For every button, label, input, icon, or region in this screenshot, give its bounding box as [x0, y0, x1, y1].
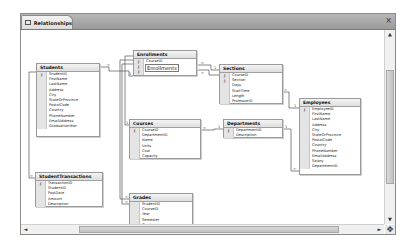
- field-row[interactable]: Description: [224, 133, 282, 138]
- tab-relationships[interactable]: Relationships: [21, 15, 73, 29]
- table-students[interactable]: Students ⚷StudentID FirstName LastName A…: [36, 63, 100, 137]
- field-row[interactable]: ProfessorID: [220, 99, 282, 104]
- field-row[interactable]: Capacity: [130, 154, 200, 159]
- close-icon[interactable]: ×: [385, 16, 392, 26]
- table-departments[interactable]: Departments ⚷DepartmentID Description: [223, 119, 283, 138]
- scroll-up-icon[interactable]: ▲: [385, 30, 395, 39]
- table-grades[interactable]: Grades StudentID CourseID Year Semester …: [129, 193, 193, 224]
- vertical-scroll-thumb[interactable]: [386, 70, 394, 184]
- relationships-canvas[interactable]: ∞ 1 ∞ ∞ 1 ∞ 1 ∞ ∞ ∞ 1 1 ∞ ∞ 1 Students ⚷…: [21, 30, 384, 224]
- field-row[interactable]: GraduationYear: [37, 124, 99, 129]
- document-tab-bar: Relationships ×: [21, 14, 395, 30]
- svg-text:1: 1: [218, 125, 220, 129]
- svg-text:∞: ∞: [201, 71, 204, 75]
- table-title: Grades: [130, 194, 192, 202]
- svg-text:1: 1: [129, 72, 131, 76]
- table-title: Courses: [130, 120, 200, 128]
- table-sections[interactable]: Sections ⚷CourseID ⚷Section Days StartTi…: [219, 64, 283, 104]
- svg-text:∞: ∞: [125, 200, 128, 204]
- svg-text:∞: ∞: [284, 88, 287, 92]
- table-employees[interactable]: Employees ⚷EmployeeID FirstName LastName…: [299, 98, 361, 175]
- svg-text:∞: ∞: [203, 126, 206, 130]
- svg-text:1: 1: [126, 121, 128, 125]
- relationships-window: Relationships ×: [20, 13, 396, 235]
- table-title: Employees: [300, 99, 360, 107]
- svg-text:∞: ∞: [30, 174, 33, 178]
- table-enrollments[interactable]: Enrollments ⚷CourseID ⚷Section ⚷StudentI…: [133, 50, 197, 76]
- table-title: StudentTransactions: [36, 173, 102, 181]
- table-title: Students: [37, 64, 99, 72]
- table-courses[interactable]: Courses ⚷CourseID DepartmentID Name Unit…: [129, 119, 201, 159]
- tab-label: Relationships: [34, 20, 72, 26]
- scroll-right-icon[interactable]: ►: [375, 225, 384, 234]
- field-row[interactable]: Description: [36, 202, 102, 207]
- table-title: Sections: [220, 65, 282, 73]
- scroll-left-icon[interactable]: ◄: [21, 225, 30, 234]
- table-student-transactions[interactable]: StudentTransactions ⚷TransactionID Stude…: [35, 172, 103, 207]
- vertical-scrollbar[interactable]: ▲ ▼: [384, 30, 395, 224]
- table-title: Enrollments: [134, 51, 196, 59]
- move-resize-icon[interactable]: ✥: [385, 225, 395, 234]
- table-title: Departments: [224, 120, 282, 128]
- field-row[interactable]: DepartmentID: [300, 164, 360, 169]
- scroll-down-icon[interactable]: ▼: [385, 215, 395, 224]
- svg-text:1: 1: [294, 104, 296, 108]
- relationships-icon: [25, 20, 31, 25]
- primary-key-icon: ⚷: [134, 69, 144, 74]
- svg-text:∞: ∞: [125, 195, 128, 199]
- horizontal-scrollbar[interactable]: ◄ ►: [21, 224, 384, 234]
- svg-text:∞: ∞: [293, 167, 296, 171]
- table-name-edit-field[interactable]: Enrollments: [145, 64, 179, 72]
- svg-text:∞: ∞: [107, 63, 110, 67]
- svg-text:1: 1: [285, 125, 287, 129]
- svg-text:1: 1: [214, 66, 216, 70]
- svg-text:∞: ∞: [201, 61, 204, 65]
- horizontal-scroll-thumb[interactable]: [79, 226, 339, 233]
